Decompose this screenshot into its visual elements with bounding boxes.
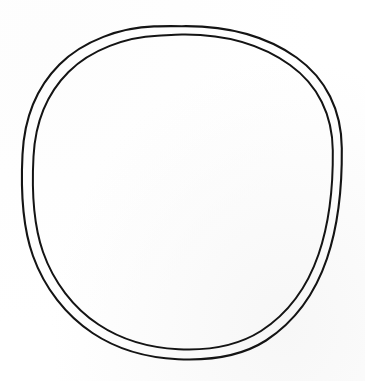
double-circle-drawing: [0, 0, 365, 381]
outer-circle: [22, 26, 342, 359]
drawing-canvas: [0, 0, 365, 381]
inner-circle: [33, 34, 333, 349]
